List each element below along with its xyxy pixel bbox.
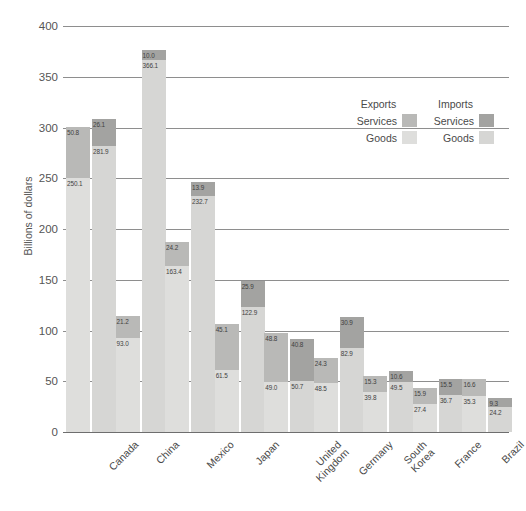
x-tick-label-france: France (452, 439, 483, 470)
value-label-goods: 27.4 (414, 406, 426, 413)
segment-goods: 35.3 (462, 396, 486, 432)
y-tick-label-0: 0 (18, 426, 58, 438)
plot-area: 050100150200250300350400 250.150.8281.92… (63, 26, 509, 432)
gridline-0 (63, 432, 509, 433)
bar-exports-germany: 48.524.3 (314, 358, 338, 432)
value-label-services: 16.6 (463, 381, 475, 388)
value-label-goods: 232.7 (192, 198, 208, 205)
segment-services: 9.3 (488, 398, 512, 407)
x-tick-label-mexico: Mexico (205, 439, 236, 470)
chart-legend: Exports Imports Services Services Goods … (340, 98, 495, 146)
segment-services: 24.3 (314, 358, 338, 383)
value-label-goods: 163.4 (166, 268, 182, 275)
value-label-goods: 50.7 (291, 383, 303, 390)
segment-services: 48.8 (264, 333, 288, 383)
bar-exports-mexico: 163.424.2 (165, 242, 189, 432)
bar-imports-brazil: 24.29.3 (488, 398, 512, 432)
bar-exports-japan: 61.545.1 (215, 324, 239, 432)
x-tick-label-united-kingdom: UnitedKingdom (306, 439, 351, 484)
value-label-services: 24.3 (315, 360, 327, 367)
value-label-services: 21.2 (117, 318, 129, 325)
x-tick-label-japan: Japan (253, 439, 281, 467)
y-tick-label-100: 100 (18, 325, 58, 337)
bar-exports-france: 27.415.9 (413, 388, 437, 432)
value-label-services: 13.9 (192, 184, 204, 191)
segment-goods: 48.5 (314, 383, 338, 432)
segment-goods: 49.5 (389, 382, 413, 432)
segment-goods: 366.1 (142, 60, 166, 432)
y-tick-label-50: 50 (18, 375, 58, 387)
bar-imports-south-korea: 49.510.6 (389, 371, 413, 432)
bar-exports-brazil: 35.316.6 (462, 379, 486, 432)
legend-label-imports-goods: Goods (443, 132, 474, 144)
legend-swatch-imports-goods (479, 131, 494, 144)
bar-group-mexico: 163.424.2232.713.9 (165, 26, 215, 432)
segment-services: 10.0 (142, 50, 166, 60)
legend-row-goods: Goods Goods (340, 129, 495, 146)
value-label-goods: 36.7 (440, 397, 452, 404)
bar-group-germany: 48.524.382.930.9 (314, 26, 364, 432)
legend-label-exports-goods: Goods (366, 132, 397, 144)
x-tick-label-china: China (154, 439, 181, 466)
segment-goods: 122.9 (241, 307, 265, 432)
value-label-goods: 49.5 (390, 384, 402, 391)
y-tick-label-150: 150 (18, 274, 58, 286)
value-label-goods: 24.2 (489, 409, 501, 416)
bar-imports-france: 36.715.5 (439, 379, 463, 432)
bar-group-south-korea: 39.815.349.510.6 (363, 26, 413, 432)
legend-title-exports: Exports (340, 98, 417, 110)
legend-label-imports-services: Services (434, 115, 474, 127)
bar-imports-germany: 82.930.9 (340, 317, 364, 433)
y-tick-label-250: 250 (18, 172, 58, 184)
legend-title-imports: Imports (417, 98, 494, 110)
y-axis-title: Billions of dollars (22, 177, 34, 256)
legend-item-exports-services: Services (340, 114, 417, 127)
bar-group-france: 27.415.936.715.5 (413, 26, 463, 432)
value-label-services: 9.3 (489, 400, 498, 407)
bar-exports-canada: 250.150.8 (66, 127, 90, 432)
legend-item-imports-services: Services (417, 114, 494, 127)
segment-services: 13.9 (191, 182, 215, 196)
value-label-goods: 35.3 (463, 398, 475, 405)
segment-services: 24.2 (165, 242, 189, 267)
legend-swatch-imports-services (479, 114, 494, 127)
bar-imports-mexico: 232.713.9 (191, 182, 215, 432)
segment-services: 40.8 (290, 339, 314, 380)
segment-services: 45.1 (215, 324, 239, 370)
segment-goods: 232.7 (191, 196, 215, 432)
x-tick-label-brazil: Brazil (500, 439, 526, 465)
value-label-goods: 49.0 (265, 384, 277, 391)
legend-swatch-exports-goods (402, 131, 417, 144)
segment-goods: 93.0 (116, 338, 140, 432)
segment-services: 30.9 (340, 317, 364, 348)
value-label-services: 26.1 (93, 121, 105, 128)
y-tick-label-350: 350 (18, 71, 58, 83)
bar-imports-united-kingdom: 50.740.8 (290, 339, 314, 432)
segment-services: 15.3 (363, 376, 387, 392)
value-label-services: 15.5 (440, 381, 452, 388)
bar-imports-japan: 122.925.9 (241, 281, 265, 432)
bar-imports-canada: 281.926.1 (92, 119, 116, 432)
value-label-goods: 48.5 (315, 385, 327, 392)
segment-services: 25.9 (241, 281, 265, 307)
value-label-goods: 366.1 (143, 62, 159, 69)
bar-exports-south-korea: 39.815.3 (363, 376, 387, 432)
segment-goods: 281.9 (92, 146, 116, 432)
y-tick-label-400: 400 (18, 20, 58, 32)
bar-group-united-kingdom: 49.048.850.740.8 (264, 26, 314, 432)
value-label-goods: 61.5 (216, 372, 228, 379)
value-label-services: 50.8 (67, 129, 79, 136)
segment-services: 15.5 (439, 379, 463, 395)
value-label-services: 24.2 (166, 244, 178, 251)
segment-goods: 27.4 (413, 404, 437, 432)
value-label-goods: 39.8 (364, 394, 376, 401)
segment-services: 26.1 (92, 119, 116, 145)
y-tick-label-200: 200 (18, 223, 58, 235)
bar-imports-china: 366.110.0 (142, 50, 166, 432)
bar-group-japan: 61.545.1122.925.9 (215, 26, 265, 432)
value-label-services: 15.3 (364, 378, 376, 385)
value-label-services: 15.9 (414, 390, 426, 397)
bar-group-brazil: 35.316.624.29.3 (462, 26, 512, 432)
segment-goods: 49.0 (264, 382, 288, 432)
